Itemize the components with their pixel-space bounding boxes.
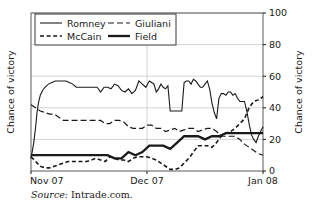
y-tick-label-100: 100	[269, 7, 287, 18]
y-tick-label-80: 80	[269, 39, 281, 50]
source-value: Intrade.com.	[68, 189, 133, 200]
x-axis-ticks: Nov 07Dec 07Jan 08	[30, 171, 278, 186]
y-tick-label-60: 60	[269, 71, 281, 82]
source-note: Source: Intrade.com.	[31, 189, 133, 200]
legend: RomneyGiulianiMcCainField	[35, 14, 176, 45]
line-chart-canvas: 020406080100 Nov 07Dec 07Jan 08 Chance o…	[0, 0, 314, 209]
legend-label-field: Field	[135, 31, 157, 42]
legend-label-romney: Romney	[67, 18, 106, 29]
chart-figure: 020406080100 Nov 07Dec 07Jan 08 Chance o…	[0, 0, 314, 209]
source-keyword: Source:	[31, 189, 68, 200]
x-tick-label-1: Dec 07	[130, 175, 164, 186]
y-tick-label-40: 40	[269, 102, 281, 113]
y-tick-label-20: 20	[269, 134, 281, 145]
y-axis-title-right: Chance of victory	[293, 50, 304, 134]
x-tick-label-2: Jan 08	[247, 175, 278, 186]
x-tick-label-0: Nov 07	[30, 175, 64, 186]
y-axis-ticks: 020406080100	[263, 7, 287, 176]
legend-label-giuliani: Giuliani	[135, 18, 171, 29]
legend-label-mccain: McCain	[67, 31, 102, 42]
y-axis-title-left: Chance of victory	[5, 50, 16, 134]
